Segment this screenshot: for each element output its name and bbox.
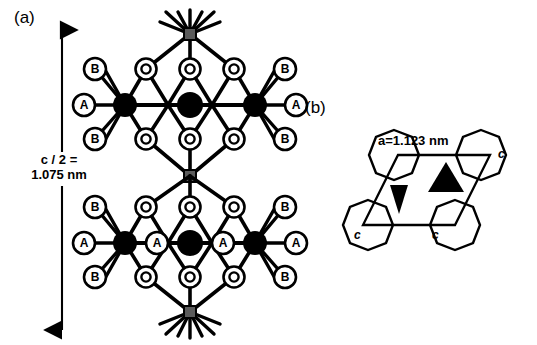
ligand-label-A: A [80,236,89,250]
metal-atom-filled [177,230,203,256]
ligand-label-A: A [153,236,162,250]
ligand-label-B: B [91,200,100,214]
ligand-label-B: B [91,132,100,146]
triangle-down-marker [390,185,408,214]
ligand-atom-A: A [285,232,307,254]
ligand-atom-B: B [84,196,106,218]
ligand-atom-A: A [73,232,95,254]
ligand-label-B: B [281,62,290,76]
oxygen-atom [136,197,157,218]
ligand-atom-A: A [73,94,95,116]
oxygen-atom [180,267,201,288]
oxygen-atom [136,129,157,150]
ligand-label-A: A [80,98,89,112]
metal-atom-filled [113,93,137,117]
ligand-label-B: B [91,270,100,284]
oxygen-atom [224,59,245,80]
ligand-label-B: B [281,132,290,146]
ligand-label-A: A [219,236,228,250]
metal-atom-filled [243,93,267,117]
dimension-label-c: c / 2 = 1.075 nm [16,152,102,182]
junction-node-top [184,28,196,40]
ligand-label-A: A [292,98,301,112]
ligand-atom-A: A [212,232,234,254]
oxygen-atom [180,197,201,218]
oxygen-atom [180,59,201,80]
ligand-atom-B: B [274,266,296,288]
dimension-label-c-line1: c / 2 = [16,152,102,167]
oxygen-atom [224,129,245,150]
ligand-atom-A: A [146,232,168,254]
corner-label-c-bottom-left: c [354,228,361,242]
panel-b-unit-cell [343,130,506,250]
ligand-atom-A: A [285,94,307,116]
ligand-atom-B: B [84,58,106,80]
oxygen-atom [136,267,157,288]
ligand-atom-B: B [274,196,296,218]
lattice-upper-unit: B B A B B A [73,10,307,176]
metal-atom-filled [113,231,137,255]
dimension-label-c-line2: 1.075 nm [16,167,102,182]
corner-label-c-bottom-right: c [432,228,439,242]
lattice-lower-unit: A A B B A B B A [73,176,307,338]
ligand-atom-B: B [274,58,296,80]
ligand-label-B: B [281,200,290,214]
oxygen-atom [180,129,201,150]
ligand-atom-B: B [84,128,106,150]
ligand-atom-B: B [274,128,296,150]
corner-label-c-top-right: c [498,147,505,161]
triangle-up-marker [428,162,464,192]
ligand-label-B: B [281,270,290,284]
metal-atom-filled [243,231,267,255]
panel-a-label: (a) [14,8,35,28]
ligand-label-B: B [91,62,100,76]
metal-atom-filled [177,92,203,118]
junction-node-bottom [184,306,196,318]
oxygen-atom [136,59,157,80]
ligand-label-A: A [292,236,301,250]
oxygen-atom [224,267,245,288]
dimension-label-a: a=1.123 nm [378,133,448,148]
panel-b-label: (b) [305,98,326,118]
oxygen-atom [224,197,245,218]
ligand-atom-B: B [84,266,106,288]
